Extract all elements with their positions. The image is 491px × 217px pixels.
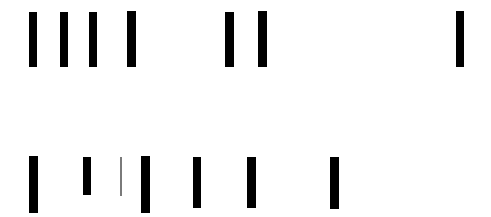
bottom-row-mark-7: [330, 157, 339, 209]
bottom-row-mark-3: [120, 157, 122, 196]
bottom-row-mark-2: [83, 157, 91, 195]
bottom-bar-row: [0, 0, 491, 217]
bottom-row-mark-5: [193, 157, 201, 208]
bar-mark-canvas: [0, 0, 491, 217]
bottom-row-mark-6: [247, 157, 256, 208]
bottom-row-mark-4: [141, 156, 150, 213]
bottom-row-mark-1: [29, 156, 38, 213]
